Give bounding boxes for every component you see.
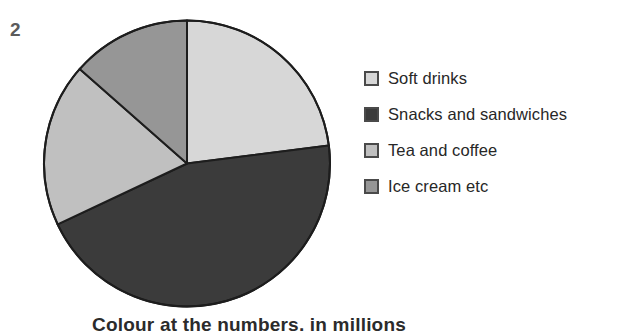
pie-slices (44, 21, 330, 307)
legend-label-soft-drinks: Soft drinks (388, 69, 467, 87)
pie-chart-graphic (42, 19, 332, 308)
chart-legend: Soft drinks Snacks and sandwiches Tea an… (364, 60, 614, 204)
pie-chart-figure: 2 Soft drinks Snacks and sandwiches Tea … (0, 0, 617, 331)
legend-swatch-ice-cream-etc (364, 179, 379, 194)
legend-label-snacks-and-sandwiches: Snacks and sandwiches (388, 105, 567, 123)
legend-swatch-soft-drinks (364, 71, 379, 86)
legend-item-snacks-and-sandwiches[interactable]: Snacks and sandwiches (364, 96, 614, 132)
legend-label-tea-and-coffee: Tea and coffee (388, 141, 497, 159)
legend-swatch-snacks-and-sandwiches (364, 107, 379, 122)
bottom-caption: Colour at the numbers, in millions (92, 314, 406, 331)
pie-svg (42, 19, 332, 308)
legend-item-soft-drinks[interactable]: Soft drinks (364, 60, 614, 96)
legend-item-ice-cream-etc[interactable]: Ice cream etc (364, 168, 614, 204)
pie-slice-soft-drinks[interactable] (187, 21, 329, 164)
legend-swatch-tea-and-coffee (364, 143, 379, 158)
legend-label-ice-cream-etc: Ice cream etc (388, 177, 488, 195)
legend-item-tea-and-coffee[interactable]: Tea and coffee (364, 132, 614, 168)
question-number: 2 (10, 20, 21, 39)
